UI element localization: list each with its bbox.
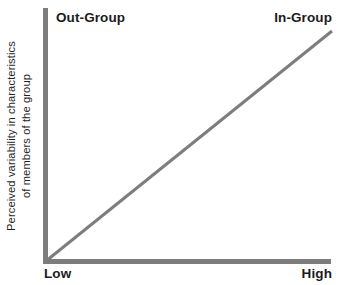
- y-axis-title-text: Perceived variability in characteristics…: [4, 41, 34, 231]
- annotation-in-group: In-Group: [274, 11, 332, 25]
- annotation-out-group: Out-Group: [56, 11, 125, 25]
- y-axis-title-line-1: Perceived variability in characteristics: [4, 41, 19, 231]
- y-axis-title-line-2: of members of the group: [19, 41, 34, 231]
- chart-plot-area: [0, 0, 343, 285]
- x-axis-tick-high: High: [302, 267, 332, 281]
- trend-line: [46, 31, 332, 261]
- y-axis-title: Perceived variability in characteristics…: [0, 0, 38, 272]
- chart-figure: Perceived variability in characteristics…: [0, 0, 343, 285]
- x-axis-tick-low: Low: [44, 267, 71, 281]
